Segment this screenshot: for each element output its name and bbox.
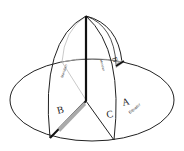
diagram-canvas: B C A B Equator Meridian Meridian	[0, 0, 184, 151]
hemisphere-diagram: B C A B Equator Meridian Meridian	[0, 0, 184, 151]
label-a: A	[121, 95, 132, 108]
label-b: B	[56, 103, 66, 115]
meridian-back-arc-inner	[86, 16, 116, 64]
back-meridian-light	[62, 16, 86, 100]
meridian-back-arc	[86, 16, 122, 62]
label-b-back: B	[110, 56, 119, 63]
label-c: C	[105, 108, 114, 120]
radius-to-c	[86, 101, 114, 140]
equator-ellipse	[10, 59, 174, 141]
label-meridian-left: Meridian	[60, 64, 68, 78]
label-meridian-center: Meridian	[99, 59, 106, 71]
